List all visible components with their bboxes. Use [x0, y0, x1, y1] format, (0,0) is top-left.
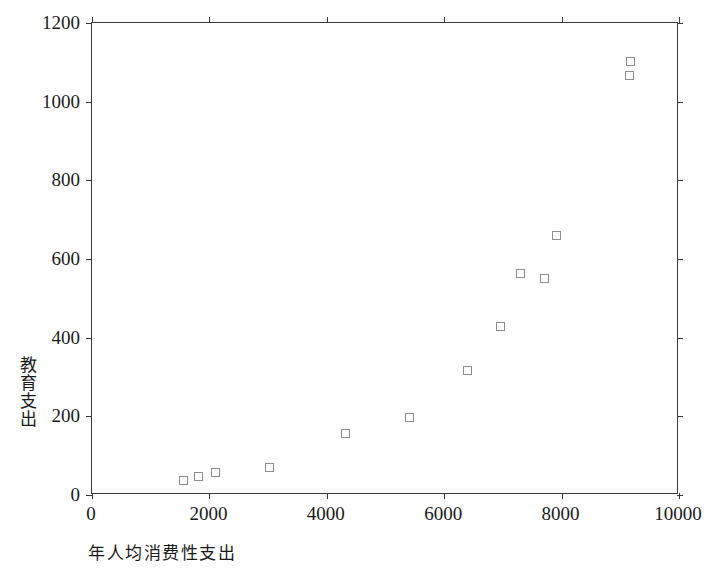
data-points-layer — [92, 23, 677, 493]
x-tick-label: 6000 — [398, 504, 488, 523]
y-axis-tick-right — [677, 338, 683, 339]
x-axis-title: 年人均消费性支出 — [88, 542, 236, 564]
y-axis-tick — [86, 102, 92, 103]
data-point — [179, 476, 188, 485]
x-tick-label: 0 — [46, 504, 136, 523]
y-axis-tick-right — [677, 23, 683, 24]
x-axis-tick — [92, 493, 93, 499]
y-tick-label: 800 — [8, 170, 80, 189]
y-axis-tick-right — [677, 259, 683, 260]
x-axis-tick — [444, 493, 445, 499]
y-axis-tick — [86, 259, 92, 260]
x-axis-tick-top — [562, 17, 563, 23]
y-tick-label: 0 — [8, 485, 80, 504]
plot-area — [91, 22, 678, 494]
data-point — [265, 463, 274, 472]
x-axis-tick-top — [209, 17, 210, 23]
x-axis-tick — [562, 493, 563, 499]
data-point — [625, 71, 634, 80]
y-axis-tick-right — [677, 180, 683, 181]
y-tick-label: 1200 — [8, 13, 80, 32]
y-tick-label: 400 — [8, 327, 80, 346]
y-axis-tick — [86, 23, 92, 24]
x-tick-label: 2000 — [163, 504, 253, 523]
y-axis-tick — [86, 180, 92, 181]
scatter-chart-figure: 1200 1000 800 600 400 200 0 0 2000 4000 … — [0, 0, 711, 581]
data-point — [211, 468, 220, 477]
y-axis-title: 教育支出 — [14, 356, 40, 428]
y-axis-tick-right — [677, 416, 683, 417]
x-axis-tick-top — [327, 17, 328, 23]
x-tick-label: 4000 — [281, 504, 371, 523]
data-point — [626, 57, 635, 66]
y-axis-tick-right — [677, 495, 683, 496]
data-point — [463, 366, 472, 375]
data-point — [516, 269, 525, 278]
y-tick-label: 600 — [8, 249, 80, 268]
x-axis-tick — [209, 493, 210, 499]
y-axis-tick — [86, 338, 92, 339]
x-axis-tick — [327, 493, 328, 499]
data-point — [194, 472, 203, 481]
x-axis-tick-top — [444, 17, 445, 23]
data-point — [341, 429, 350, 438]
x-axis-tick-top — [92, 17, 93, 23]
data-point — [540, 274, 549, 283]
x-tick-label: 8000 — [516, 504, 606, 523]
x-axis-tick-top — [679, 17, 680, 23]
y-tick-label: 1000 — [8, 91, 80, 110]
y-axis-tick — [86, 416, 92, 417]
x-tick-label: 10000 — [633, 504, 711, 523]
data-point — [496, 322, 505, 331]
y-axis-tick-right — [677, 102, 683, 103]
x-axis-tick — [679, 493, 680, 499]
data-point — [405, 413, 414, 422]
data-point — [552, 231, 561, 240]
